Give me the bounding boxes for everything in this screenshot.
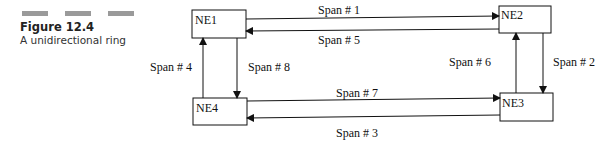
span-3-label: Span # 3 <box>336 126 378 140</box>
node-ne2: NE2 <box>499 6 551 33</box>
span-6-label: Span # 6 <box>449 55 491 69</box>
node-ne1: NE1 <box>192 10 246 38</box>
ring-diagram: NE1 NE2 NE3 NE4 Span # 1 Span # 5 Span #… <box>0 0 610 147</box>
span-5-label: Span # 5 <box>318 33 360 47</box>
node-label: NE2 <box>501 8 523 22</box>
node-ne3: NE3 <box>500 93 553 121</box>
span-4-label: Span # 4 <box>150 60 192 74</box>
span-5-line <box>246 29 499 31</box>
span-2-label: Span # 2 <box>553 55 595 69</box>
node-label: NE3 <box>502 96 524 110</box>
span-1-line <box>246 16 499 19</box>
node-label: NE1 <box>195 13 217 27</box>
span-1-label: Span # 1 <box>318 3 360 17</box>
span-8-label: Span # 8 <box>248 60 290 74</box>
node-label: NE4 <box>196 101 218 115</box>
node-ne4: NE4 <box>193 98 247 125</box>
span-3-line <box>247 115 500 118</box>
span-7-label: Span # 7 <box>336 86 378 100</box>
